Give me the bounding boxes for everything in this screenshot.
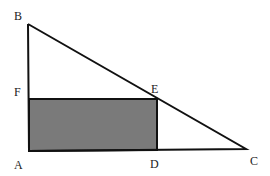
point-label-a: A [14, 158, 23, 172]
point-label-f: F [14, 85, 21, 99]
point-label-b: B [14, 9, 22, 23]
point-label-d: D [150, 157, 159, 171]
point-label-c: C [250, 154, 258, 168]
diagram-canvas: B F A E D C [0, 0, 270, 176]
shaded-rectangle-afed [29, 99, 157, 151]
point-label-e: E [151, 82, 158, 96]
geometry-diagram: B F A E D C [0, 0, 270, 176]
